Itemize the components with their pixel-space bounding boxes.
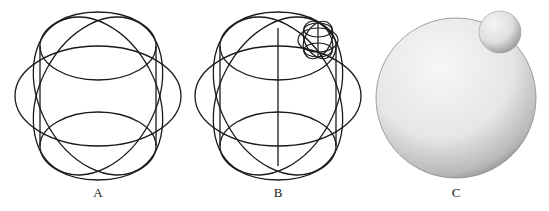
panel-label-a: A bbox=[93, 185, 102, 201]
wireframe-sphere-b bbox=[187, 0, 368, 197]
panel-label-c: C bbox=[452, 185, 461, 201]
shaded-sphere-c bbox=[376, 11, 536, 178]
panel-label-b: B bbox=[274, 185, 283, 201]
figure-canvas bbox=[0, 0, 549, 211]
wireframe-sphere-a bbox=[7, 0, 188, 197]
